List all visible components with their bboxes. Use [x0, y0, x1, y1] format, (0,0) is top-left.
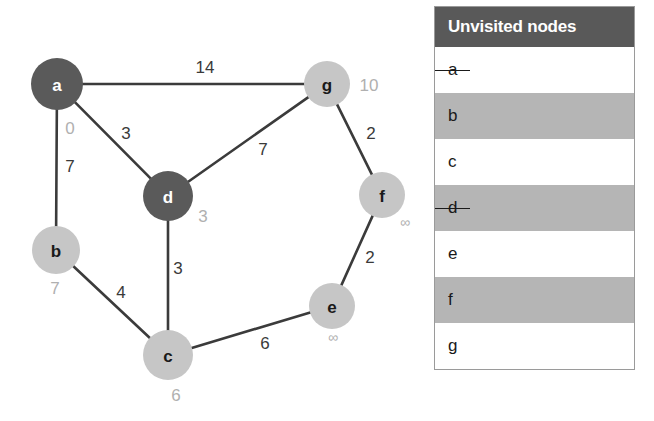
table-row[interactable]: c [435, 139, 634, 185]
graph-node-distance-f: ∞ [400, 214, 410, 230]
graph-node-distance-b: 7 [50, 279, 59, 298]
graph-edge-b-c [72, 265, 151, 339]
graph-node-label-f: f [379, 187, 385, 206]
table-row[interactable]: f [435, 277, 634, 323]
graph-node-distance-g: 10 [360, 76, 379, 95]
unvisited-nodes-table: Unvisited nodes abcdefg [434, 6, 635, 370]
graph-edge-weight-d-c: 3 [173, 259, 182, 278]
graph-node-label-d: d [163, 188, 173, 207]
unvisited-node-label-a: a [448, 47, 457, 93]
graph-node-label-c: c [163, 347, 172, 366]
graph-edge-weight-g-f: 2 [366, 124, 375, 143]
graph-svg: agdfbec 1437723426 0103∞7∞6 [0, 0, 430, 421]
graph-node-distance-labels: 0103∞7∞6 [50, 76, 410, 405]
table-row[interactable]: e [435, 231, 634, 277]
unvisited-nodes-table-body: abcdefg [435, 47, 634, 369]
graph-edge-a-d [74, 101, 152, 180]
table-row[interactable]: d [435, 185, 634, 231]
unvisited-node-label-c: c [448, 139, 457, 185]
graph-node-label-e: e [327, 298, 336, 317]
graph-edge-weight-a-d: 3 [121, 124, 130, 143]
graph-node-label-a: a [52, 76, 62, 95]
table-row[interactable]: a [435, 47, 634, 93]
graph-edge-weight-a-g: 14 [196, 58, 215, 77]
table-row[interactable]: g [435, 323, 634, 369]
graph-node-label-g: g [322, 76, 332, 95]
graph-edge-c-e [190, 312, 312, 348]
graph-edge-a-b [56, 108, 57, 228]
graph-edge-weight-d-g: 7 [258, 140, 267, 159]
graph-nodes-group: agdfbec [31, 58, 405, 380]
graph-node-label-b: b [51, 242, 61, 261]
table-row[interactable]: b [435, 93, 634, 139]
graph-edge-weight-b-c: 4 [116, 283, 125, 302]
graph-edge-weight-c-e: 6 [260, 334, 269, 353]
unvisited-node-label-e: e [448, 231, 457, 277]
graph-edge-weight-f-e: 2 [365, 248, 374, 267]
unvisited-node-label-g: g [448, 323, 457, 369]
unvisited-node-label-b: b [448, 93, 457, 139]
graph-node-distance-c: 6 [171, 386, 180, 405]
unvisited-node-label-f: f [448, 277, 453, 323]
graph-edge-weight-a-b: 7 [65, 157, 74, 176]
graph-edge-d-g [187, 96, 310, 183]
graph-node-distance-d: 3 [198, 207, 207, 226]
graph-diagram-panel: agdfbec 1437723426 0103∞7∞6 [0, 0, 430, 421]
unvisited-nodes-table-header: Unvisited nodes [435, 7, 634, 47]
graph-node-distance-a: 0 [65, 119, 74, 138]
graph-node-distance-e: ∞ [328, 329, 338, 345]
unvisited-node-label-d: d [448, 185, 457, 231]
